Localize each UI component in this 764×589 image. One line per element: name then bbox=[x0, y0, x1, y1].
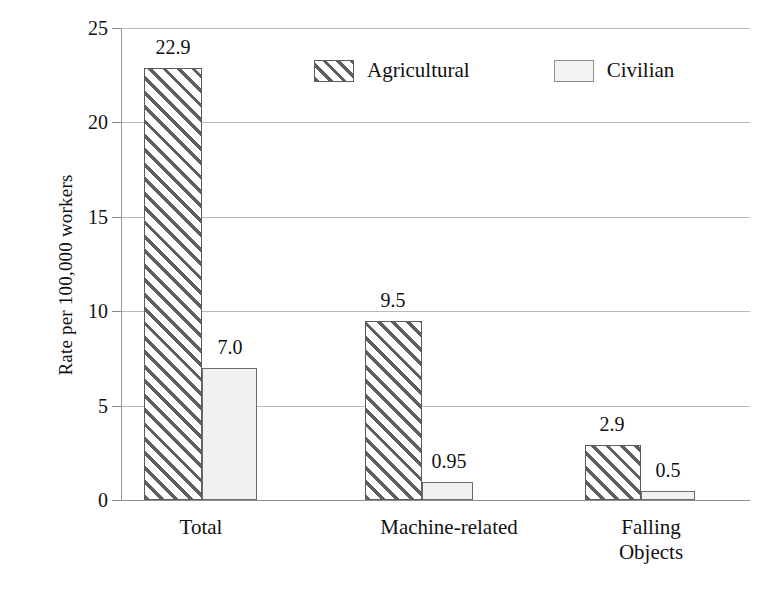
y-axis-line bbox=[121, 28, 122, 501]
gridline-25 bbox=[121, 28, 750, 29]
x-axis-label-falling-objects: Falling Objects bbox=[590, 515, 712, 565]
bar-civilian-falling-objects bbox=[641, 491, 695, 500]
bar-agricultural-total bbox=[144, 68, 202, 500]
bar-civilian-total bbox=[202, 368, 257, 500]
legend-swatch-civilian-icon bbox=[554, 60, 594, 82]
y-tick-label-10: 10 bbox=[56, 300, 108, 323]
y-tick-label-25: 25 bbox=[56, 17, 108, 40]
data-label-civilian-total: 7.0 bbox=[200, 336, 260, 359]
data-label-civilian-machine-related: 0.95 bbox=[418, 450, 480, 473]
legend-swatch-agricultural-icon bbox=[314, 60, 354, 82]
gridline-15 bbox=[121, 217, 750, 218]
y-tick-label-5: 5 bbox=[56, 395, 108, 418]
y-tick-label-0: 0 bbox=[56, 489, 108, 512]
x-axis-label-machine-related: Machine-related bbox=[338, 515, 560, 540]
legend-item-agricultural: Agricultural bbox=[314, 58, 470, 83]
gridline-10 bbox=[121, 311, 750, 312]
axis-baseline bbox=[121, 500, 750, 501]
bar-chart: Rate per 100,000 workers 25 20 15 10 5 0… bbox=[0, 0, 764, 589]
y-tick-label-20: 20 bbox=[56, 111, 108, 134]
bar-agricultural-machine-related bbox=[365, 321, 422, 500]
bar-civilian-machine-related bbox=[422, 482, 473, 500]
data-label-civilian-falling-objects: 0.5 bbox=[639, 459, 697, 482]
data-label-agricultural-falling-objects: 2.9 bbox=[583, 413, 641, 436]
y-tick-label-15: 15 bbox=[56, 206, 108, 229]
data-label-agricultural-machine-related: 9.5 bbox=[364, 289, 422, 312]
chart-legend: Agricultural Civilian bbox=[314, 58, 674, 83]
legend-label-civilian: Civilian bbox=[607, 58, 675, 83]
legend-label-agricultural: Agricultural bbox=[367, 58, 470, 83]
gridline-20 bbox=[121, 122, 750, 123]
bar-agricultural-falling-objects bbox=[585, 445, 641, 500]
y-axis-title: Rate per 100,000 workers bbox=[55, 125, 77, 425]
x-axis-label-total: Total bbox=[140, 515, 262, 540]
legend-item-civilian: Civilian bbox=[554, 58, 675, 83]
data-label-agricultural-total: 22.9 bbox=[143, 36, 203, 59]
